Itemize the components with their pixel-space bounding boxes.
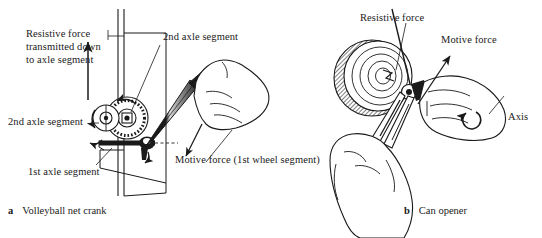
label-resistive-force-a: Resistive force transmitted down to axle… xyxy=(26,27,108,67)
caption-mark-a: a xyxy=(8,205,13,216)
caption-panel-b: bCan opener xyxy=(404,205,467,216)
hand-gripping-handle-icon xyxy=(330,134,413,238)
hand-turning-knob-icon xyxy=(420,76,506,141)
hand-gripping-icon xyxy=(194,60,269,130)
gear-wheel-icon xyxy=(93,97,148,139)
caption-mark-b: b xyxy=(404,205,410,216)
caption-text-b: Can opener xyxy=(419,205,467,216)
label-second-axle-segment-top: 2nd axle segment xyxy=(163,30,238,43)
label-first-axle-segment: 1st axle segment xyxy=(28,165,100,178)
label-motive-force-b: Motive force xyxy=(441,33,497,46)
label-motive-force-a: Motive force (1st wheel segment) xyxy=(175,153,320,166)
caption-panel-a: aVolleyball net crank xyxy=(8,205,107,216)
label-second-axle-segment-left: 2nd axle segment xyxy=(8,115,83,128)
figure-root: Resistive force transmitted down to axle… xyxy=(0,0,542,238)
caption-text-a: Volleyball net crank xyxy=(22,205,106,216)
label-axis: Axis xyxy=(508,110,528,123)
label-resistive-force-b: Resistive force xyxy=(360,11,424,24)
